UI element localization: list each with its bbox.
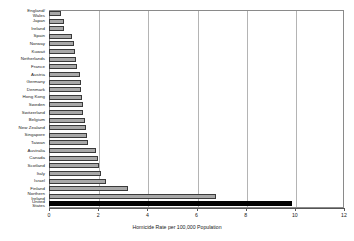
bar bbox=[49, 49, 75, 54]
category-label: Japan bbox=[33, 19, 45, 23]
bar bbox=[49, 125, 86, 130]
bar bbox=[49, 186, 128, 191]
bar bbox=[49, 95, 82, 100]
x-tick-0 bbox=[49, 208, 50, 211]
x-tick-4 bbox=[147, 208, 148, 211]
bar bbox=[49, 57, 76, 62]
bar bbox=[49, 102, 83, 107]
bar bbox=[49, 194, 216, 199]
category-label: Singapore bbox=[25, 133, 45, 137]
category-label: Australia bbox=[27, 149, 45, 153]
category-label: Spain bbox=[34, 34, 45, 38]
bar bbox=[49, 148, 96, 153]
bar bbox=[49, 11, 61, 16]
x-tick-8 bbox=[246, 208, 247, 211]
x-tick-label-6: 6 bbox=[195, 212, 198, 218]
category-label: Israel bbox=[34, 179, 45, 183]
bar bbox=[49, 201, 292, 206]
category-label: Norway bbox=[30, 42, 45, 46]
bar bbox=[49, 171, 101, 176]
bar bbox=[49, 64, 77, 69]
category-label: Scotland bbox=[28, 164, 46, 168]
bar bbox=[49, 156, 98, 161]
bar bbox=[49, 87, 81, 92]
category-label: New Zealand bbox=[19, 126, 45, 130]
category-label: England/ Wales bbox=[27, 9, 45, 18]
bar bbox=[49, 26, 64, 31]
bar bbox=[49, 163, 99, 168]
x-axis-title: Homicide Rate per 100,000 Population bbox=[0, 224, 354, 230]
x-tick-10 bbox=[295, 208, 296, 211]
x-tick-label-2: 2 bbox=[97, 212, 100, 218]
category-label: Switzerland bbox=[22, 111, 45, 115]
x-tick-2 bbox=[98, 208, 99, 211]
bar bbox=[49, 19, 64, 24]
category-label: Kuwait bbox=[32, 50, 45, 54]
bar bbox=[49, 110, 83, 115]
x-tick-12 bbox=[344, 208, 345, 211]
category-label: United States bbox=[32, 200, 45, 209]
category-label: Germany bbox=[27, 80, 45, 84]
x-tick-label-8: 8 bbox=[244, 212, 247, 218]
bars-layer bbox=[49, 10, 344, 208]
x-tick-label-10: 10 bbox=[292, 212, 298, 218]
category-label: Sweden bbox=[29, 103, 45, 107]
category-label: Belgium bbox=[29, 118, 45, 122]
bar bbox=[49, 118, 85, 123]
x-tick-label-12: 12 bbox=[341, 212, 347, 218]
homicide-rate-bar-chart: England/ WalesJapanIrelandSpainNorwayKuw… bbox=[0, 0, 354, 241]
x-tick-label-0: 0 bbox=[48, 212, 51, 218]
category-label: Ireland bbox=[31, 27, 45, 31]
category-label: France bbox=[31, 65, 45, 69]
bar bbox=[49, 34, 72, 39]
category-label: Austria bbox=[31, 73, 45, 77]
x-tick-label-4: 4 bbox=[146, 212, 149, 218]
x-tick-6 bbox=[197, 208, 198, 211]
category-label: Canada bbox=[29, 156, 45, 160]
category-label: Hong Kong bbox=[23, 95, 45, 99]
category-label: Taiwan bbox=[31, 141, 45, 145]
bar bbox=[49, 72, 80, 77]
bar bbox=[49, 80, 81, 85]
bar bbox=[49, 41, 74, 46]
category-label: Netherlands bbox=[21, 57, 45, 61]
bar bbox=[49, 179, 106, 184]
category-label: Italy bbox=[37, 172, 45, 176]
bar bbox=[49, 140, 88, 145]
bar bbox=[49, 133, 87, 138]
category-labels: England/ WalesJapanIrelandSpainNorwayKuw… bbox=[0, 10, 47, 208]
category-label: Denmark bbox=[27, 88, 45, 92]
